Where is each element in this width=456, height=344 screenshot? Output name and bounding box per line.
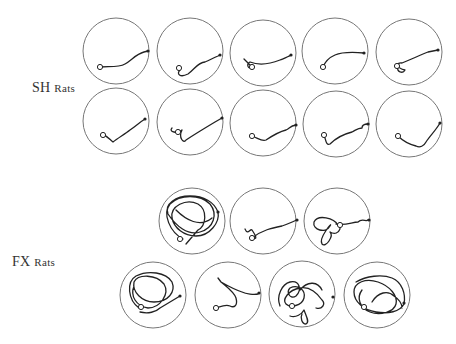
start-point-marker: [249, 235, 254, 240]
start-point-marker: [175, 129, 180, 134]
start-point-marker: [337, 222, 342, 227]
end-point-marker: [216, 210, 219, 213]
arena-fx-1: [159, 188, 225, 254]
end-point-marker: [438, 121, 441, 124]
swim-path: [324, 124, 368, 144]
end-point-marker: [218, 53, 221, 56]
swim-path: [178, 55, 220, 76]
swim-path: [323, 52, 364, 67]
arena-boundary: [83, 18, 149, 84]
arena-boundary: [230, 90, 296, 156]
arena-boundary: [230, 20, 296, 86]
end-point-marker: [367, 218, 370, 221]
arena-sh-4: [302, 18, 368, 84]
arena-sh-6: [83, 88, 149, 154]
end-point-marker: [257, 291, 260, 294]
start-point-marker: [361, 304, 366, 309]
swim-path: [398, 123, 440, 147]
arena-sh-2: [157, 18, 223, 84]
start-point-marker: [138, 304, 143, 309]
end-point-marker: [178, 294, 181, 297]
start-point-marker: [289, 303, 294, 308]
start-point-marker: [177, 236, 182, 241]
arena-fx-7: [344, 262, 410, 328]
start-point-marker: [213, 305, 218, 310]
start-point-marker: [394, 63, 399, 68]
swim-path: [398, 50, 438, 72]
arena-fx-3: [304, 188, 371, 254]
swim-path: [103, 119, 145, 142]
end-point-marker: [362, 51, 365, 54]
end-point-marker: [143, 117, 146, 120]
end-point-marker: [220, 116, 223, 119]
arena-boundary: [157, 89, 223, 155]
start-point-marker: [176, 65, 181, 70]
arena-sh-8: [230, 90, 298, 156]
swim-path: [167, 196, 218, 244]
swim-path: [130, 273, 180, 313]
arena-boundary: [230, 188, 296, 254]
end-point-marker: [295, 218, 298, 221]
start-point-marker: [320, 64, 325, 69]
start-point-marker: [249, 64, 254, 69]
arena-sh-10: [376, 91, 442, 157]
arena-sh-1: [83, 18, 150, 84]
arena-boundary: [302, 18, 368, 84]
swim-path: [279, 282, 324, 324]
arena-boundary: [303, 91, 369, 157]
swim-path: [252, 125, 296, 141]
end-point-marker: [436, 48, 439, 51]
end-point-marker: [331, 295, 334, 298]
trajectory-figure: [0, 0, 456, 344]
arena-boundary: [376, 91, 442, 157]
start-point-marker: [97, 64, 102, 69]
arena-sh-5: [376, 19, 442, 85]
arena-sh-3: [230, 20, 296, 86]
arena-fx-6: [269, 261, 335, 327]
swim-path: [100, 51, 148, 67]
arena-fx-4: [120, 262, 186, 328]
end-point-marker: [402, 301, 405, 304]
end-point-marker: [289, 53, 292, 56]
start-point-marker: [395, 133, 400, 138]
arena-sh-7: [157, 89, 224, 155]
arena-boundary: [376, 19, 442, 85]
end-point-marker: [294, 123, 297, 126]
arena-boundary: [195, 262, 261, 328]
start-point-marker: [100, 132, 105, 137]
start-point-marker: [249, 133, 254, 138]
arena-fx-5: [195, 262, 261, 328]
arena-boundary: [157, 18, 223, 84]
end-point-marker: [366, 122, 369, 125]
arena-fx-2: [230, 188, 299, 254]
start-point-marker: [321, 132, 326, 137]
swim-path: [314, 218, 368, 245]
end-point-marker: [146, 49, 149, 52]
arena-boundary: [83, 88, 149, 154]
swim-path: [216, 278, 258, 308]
arena-sh-9: [303, 91, 370, 157]
